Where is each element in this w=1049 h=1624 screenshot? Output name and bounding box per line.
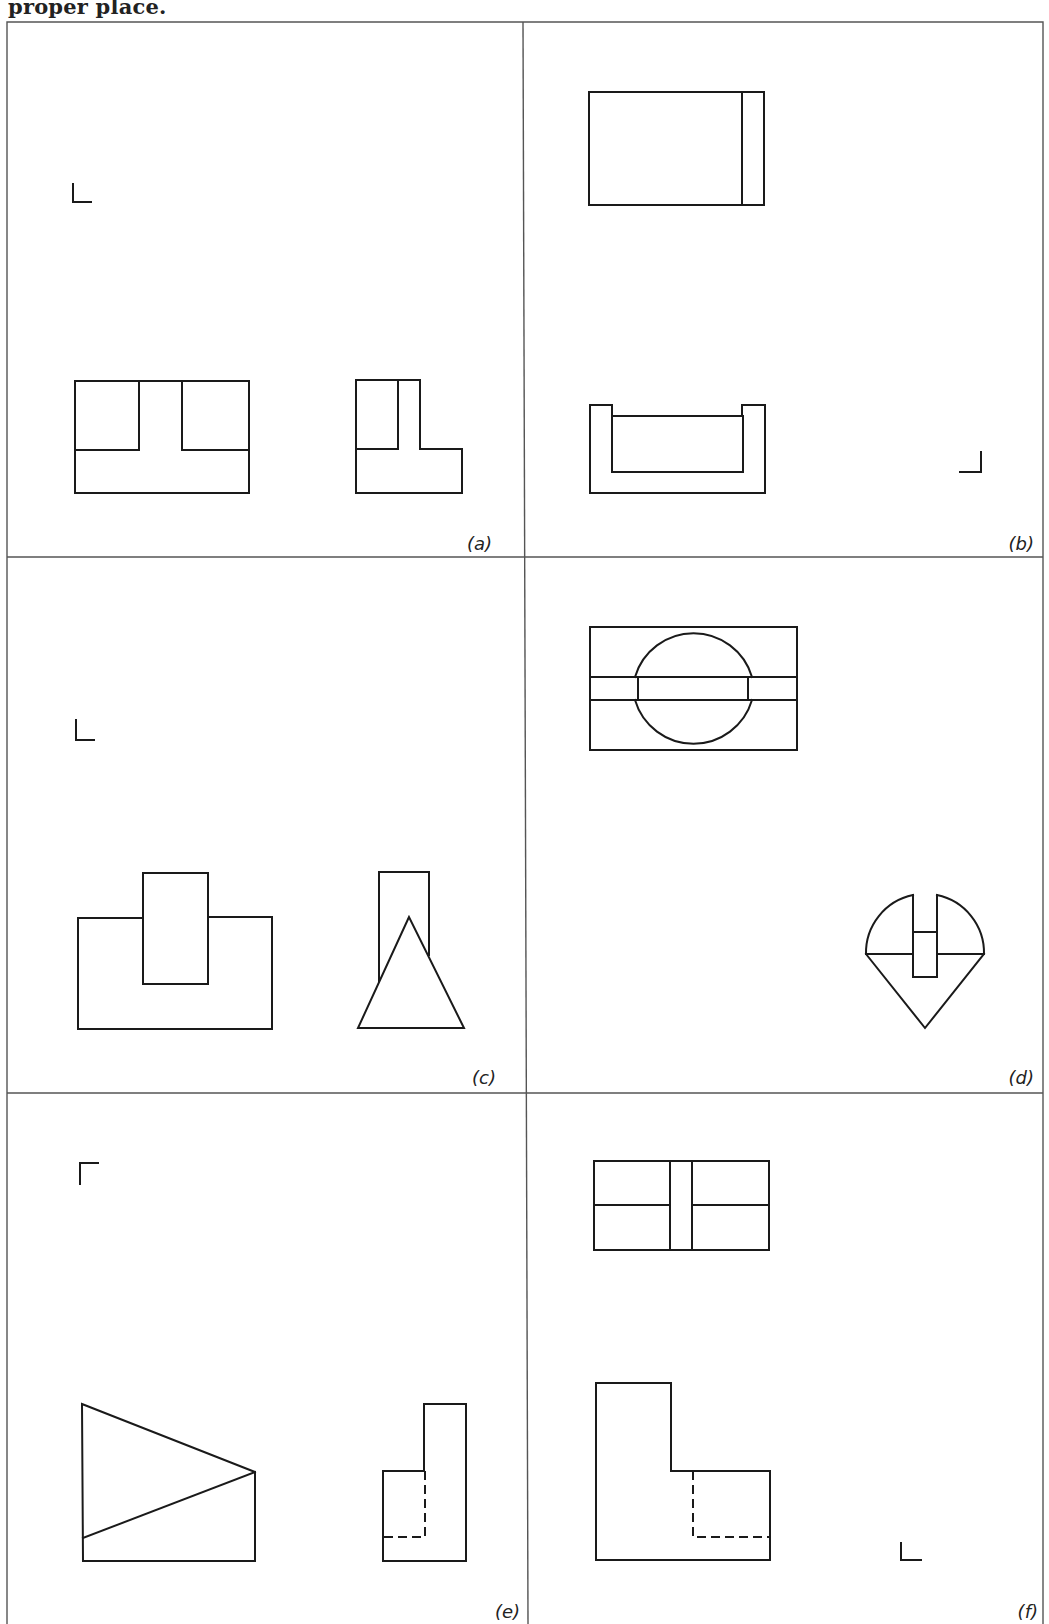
panel-label: (a) [467, 533, 492, 554]
orientation-mark [76, 720, 94, 740]
front-view [596, 1383, 770, 1560]
orientation-mark [960, 452, 981, 472]
panel-grid [7, 22, 1043, 1624]
orientation-mark [901, 1543, 921, 1560]
panel-e: (e) [80, 1163, 520, 1622]
top-view [589, 92, 764, 205]
panel-label: (f) [1018, 1601, 1038, 1622]
drawing-sheet: (a) (b) (c) [0, 0, 1049, 1624]
front-view [590, 405, 765, 493]
front-view [75, 381, 249, 493]
panel-b: (b) [589, 92, 1034, 554]
panel-label: (b) [1009, 533, 1034, 554]
panel-c: (c) [76, 720, 496, 1088]
side-view [356, 380, 462, 493]
panel-d: (d) [590, 627, 1034, 1088]
panel-a: (a) [73, 184, 492, 554]
side-view [358, 872, 464, 1028]
front-view [78, 873, 272, 1029]
side-view [866, 895, 984, 1028]
top-view [594, 1161, 769, 1250]
orientation-mark [73, 184, 91, 202]
panel-label: (c) [472, 1067, 496, 1088]
panel-label: (e) [495, 1601, 520, 1622]
column-divider [523, 22, 528, 1624]
orientation-mark [80, 1163, 98, 1184]
panel-label: (d) [1009, 1067, 1034, 1088]
panel-f: (f) [594, 1161, 1038, 1622]
front-view [82, 1404, 255, 1561]
top-view [590, 627, 797, 750]
side-view [383, 1404, 466, 1561]
